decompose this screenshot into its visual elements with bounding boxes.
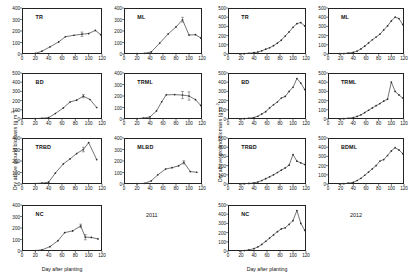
- y-tick-label: 0: [215, 249, 226, 254]
- x-tick-label: 60: [264, 186, 269, 191]
- x-tick-label: 60: [59, 56, 64, 61]
- y-tick-label: 0: [9, 52, 20, 57]
- x-tick-label: 40: [251, 121, 256, 126]
- y-tick-label: 100: [9, 107, 20, 112]
- y-tick-label: 200: [215, 33, 226, 38]
- panel-title: NC: [241, 211, 249, 217]
- x-tick-label: 120: [98, 186, 106, 191]
- y-tick-label: 400: [215, 80, 226, 85]
- biomass-multipanel-figure: Dry above ground biomass (g m-2)Dry abov…: [0, 0, 410, 275]
- x-tick-label: 20: [238, 121, 243, 126]
- x-tick-label: 20: [134, 56, 139, 61]
- x-tick-label: 100: [387, 56, 395, 61]
- x-tick-label: 120: [198, 186, 206, 191]
- x-tick-label: 20: [33, 253, 38, 258]
- series-line: [22, 8, 102, 54]
- x-tick-label: 120: [98, 56, 106, 61]
- y-tick-label: 100: [315, 107, 326, 112]
- x-tick-label: 100: [289, 121, 297, 126]
- x-tick-label: 20: [238, 186, 243, 191]
- y-tick-label: 0: [9, 182, 20, 187]
- x-tick-label: 40: [351, 186, 356, 191]
- y-tick-label: 100: [111, 40, 122, 45]
- x-tick-label: 120: [98, 253, 106, 258]
- y-tick-label: 100: [315, 42, 326, 47]
- y-tick-label: 500: [315, 71, 326, 76]
- y-tick-label: 100: [9, 237, 20, 242]
- x-tick-label: 100: [85, 121, 93, 126]
- x-tick-label: 40: [147, 56, 152, 61]
- series-line: [228, 138, 306, 184]
- panel-title: BD: [36, 79, 44, 85]
- x-tick-label: 20: [238, 56, 243, 61]
- panel-title: BD: [241, 79, 249, 85]
- y-tick-label: 400: [215, 15, 226, 20]
- y-tick-label: 500: [215, 71, 226, 76]
- x-tick-label: 40: [251, 56, 256, 61]
- y-tick-label: 100: [215, 107, 226, 112]
- x-tick-label: 60: [160, 121, 165, 126]
- x-tick-label: 0: [327, 186, 330, 191]
- y-tick-label: 400: [111, 71, 122, 76]
- x-tick-label: 20: [338, 121, 343, 126]
- x-tick-label: 0: [123, 121, 126, 126]
- y-tick-label: 100: [9, 170, 20, 175]
- panel-2012-trbd: 0100200300400500020406080100120TRBD: [228, 138, 306, 184]
- x-tick-label: 100: [387, 186, 395, 191]
- x-tick-label: 20: [134, 186, 139, 191]
- x-tick-label: 120: [98, 121, 106, 126]
- panel-2012-bdml: 0100200300400500020406080100120BDML: [328, 138, 404, 184]
- x-tick-label: 120: [400, 121, 408, 126]
- x-tick-label: 100: [289, 56, 297, 61]
- x-tick-label: 80: [376, 186, 381, 191]
- x-tick-label: 80: [73, 186, 78, 191]
- panel-2011-nc: 0100200300400020406080100120NC: [22, 205, 102, 251]
- x-tick-label: 60: [59, 253, 64, 258]
- x-tick-label: 80: [376, 121, 381, 126]
- y-tick-label: 300: [111, 82, 122, 87]
- y-tick-label: 300: [111, 17, 122, 22]
- x-tick-label: 60: [363, 186, 368, 191]
- x-tick-label: 20: [338, 186, 343, 191]
- y-tick-label: 300: [111, 147, 122, 152]
- panel-title: TR: [241, 14, 249, 20]
- y-tick-label: 300: [315, 89, 326, 94]
- x-tick-label: 20: [33, 121, 38, 126]
- y-tick-label: 200: [9, 226, 20, 231]
- x-tick-label: 0: [227, 253, 230, 258]
- y-tick-label: 300: [315, 154, 326, 159]
- x-tick-label: 40: [251, 253, 256, 258]
- x-tick-label: 100: [85, 186, 93, 191]
- y-tick-label: 500: [215, 203, 226, 208]
- y-tick-label: 100: [9, 40, 20, 45]
- panel-title: ML: [341, 14, 349, 20]
- x-tick-label: 80: [73, 253, 78, 258]
- x-tick-label: 40: [147, 186, 152, 191]
- y-axis-title-2012: Dry above ground biomass (g m-2): [216, 101, 223, 182]
- y-tick-label: 500: [315, 136, 326, 141]
- x-tick-label: 0: [123, 186, 126, 191]
- x-tick-label: 40: [351, 56, 356, 61]
- series-line: [124, 138, 202, 184]
- x-tick-label: 20: [238, 253, 243, 258]
- x-tick-label: 0: [327, 121, 330, 126]
- x-tick-label: 120: [302, 56, 310, 61]
- y-tick-label: 200: [111, 94, 122, 99]
- panel-2011-tr: 0100200300400020406080100120TR: [22, 8, 102, 54]
- x-tick-label: 80: [376, 56, 381, 61]
- x-tick-label: 0: [123, 56, 126, 61]
- x-axis-title-2011: Day after planting: [42, 266, 83, 272]
- x-tick-label: 0: [327, 56, 330, 61]
- panel-title: ML: [137, 14, 145, 20]
- x-tick-label: 100: [185, 186, 193, 191]
- panel-title: TRBD: [241, 144, 257, 150]
- y-tick-label: 200: [215, 163, 226, 168]
- y-tick-label: 500: [215, 6, 226, 11]
- y-tick-label: 300: [215, 89, 226, 94]
- y-tick-label: 100: [315, 172, 326, 177]
- y-tick-label: 200: [9, 29, 20, 34]
- y-tick-label: 0: [315, 52, 326, 57]
- x-tick-label: 40: [46, 56, 51, 61]
- x-tick-label: 120: [302, 186, 310, 191]
- x-tick-label: 80: [73, 121, 78, 126]
